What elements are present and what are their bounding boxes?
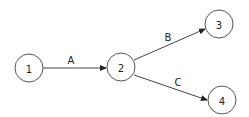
node-3: 3: [205, 10, 233, 38]
edge-a-label: A: [68, 55, 75, 66]
node-3-label: 3: [216, 20, 222, 31]
network-diagram: A B C 1 2 3 4: [0, 0, 249, 117]
edge-b: B: [134, 29, 205, 60]
node-4-label: 4: [219, 96, 225, 107]
edge-a: A: [43, 55, 106, 69]
edge-c-label: C: [175, 77, 182, 88]
node-4: 4: [208, 86, 236, 114]
edge-b-label: B: [165, 32, 172, 43]
edge-c-line: [134, 75, 207, 100]
node-2: 2: [107, 53, 135, 81]
edge-c: C: [134, 75, 207, 100]
node-2-label: 2: [118, 63, 124, 74]
node-1: 1: [15, 54, 43, 82]
node-1-label: 1: [26, 64, 32, 75]
